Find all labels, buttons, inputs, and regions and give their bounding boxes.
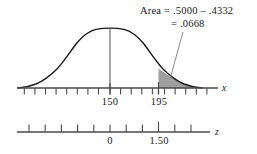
x-axis-label-cutoff: 195 <box>145 97 173 108</box>
x-axis-ticks <box>24 88 207 95</box>
z-axis-label-mean: 0 <box>102 136 118 147</box>
normal-curve-figure: Area = .5000 – .4332 = .0668 150 195 0 1… <box>0 0 257 154</box>
z-axis-label-cutoff: 1.50 <box>144 136 174 147</box>
area-annotation-line-2: = .0668 <box>171 19 205 30</box>
z-axis-name: z <box>215 128 219 138</box>
area-annotation-line-1: Area = .5000 – .4332 <box>140 6 233 17</box>
x-axis-name: x <box>222 84 226 94</box>
z-axis-ticks <box>29 122 191 133</box>
annotation-leader-line <box>170 32 183 79</box>
x-axis-label-mean: 150 <box>96 97 124 108</box>
